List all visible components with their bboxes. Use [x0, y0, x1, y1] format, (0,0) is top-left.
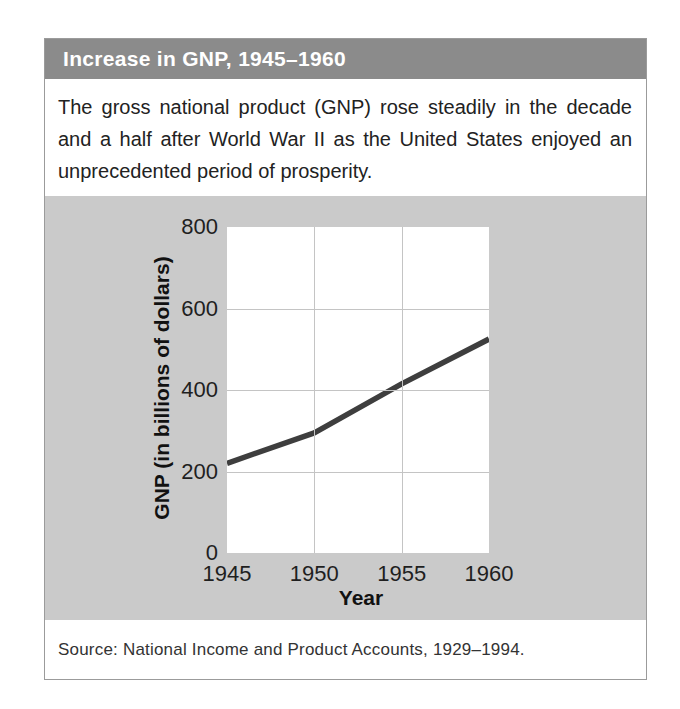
y-tick-label: 200	[45, 459, 218, 485]
y-tick-label: 0	[45, 540, 218, 566]
figure-header: Increase in GNP, 1945–1960	[45, 39, 646, 79]
source-note: Source: National Income and Product Acco…	[45, 640, 525, 660]
x-tick-label: 1950	[269, 562, 359, 586]
x-tick-label: 1955	[357, 562, 447, 586]
gridline-horizontal	[227, 309, 489, 310]
y-tick-label: 600	[45, 296, 218, 322]
y-tick-label: 400	[45, 377, 218, 403]
page: Increase in GNP, 1945–1960 The gross nat…	[0, 0, 680, 709]
gridline-horizontal	[227, 472, 489, 473]
figure-box: Increase in GNP, 1945–1960 The gross nat…	[44, 38, 647, 680]
figure-title: Increase in GNP, 1945–1960	[45, 47, 346, 71]
figure-description: The gross national product (GNP) rose st…	[45, 79, 646, 196]
gridline-horizontal	[227, 390, 489, 391]
figure-footer: Source: National Income and Product Acco…	[45, 620, 646, 679]
x-tick-label: 1945	[182, 562, 272, 586]
plot-area	[227, 227, 489, 553]
y-tick-label: 800	[45, 214, 218, 240]
chart-panel: GNP (in billions of dollars) 02004006008…	[45, 196, 646, 620]
gridline-vertical	[314, 227, 315, 553]
y-axis-title: GNP (in billions of dollars)	[150, 256, 174, 519]
x-tick-label: 1960	[444, 562, 534, 586]
x-axis-title: Year	[339, 586, 383, 610]
gridline-vertical	[402, 227, 403, 553]
